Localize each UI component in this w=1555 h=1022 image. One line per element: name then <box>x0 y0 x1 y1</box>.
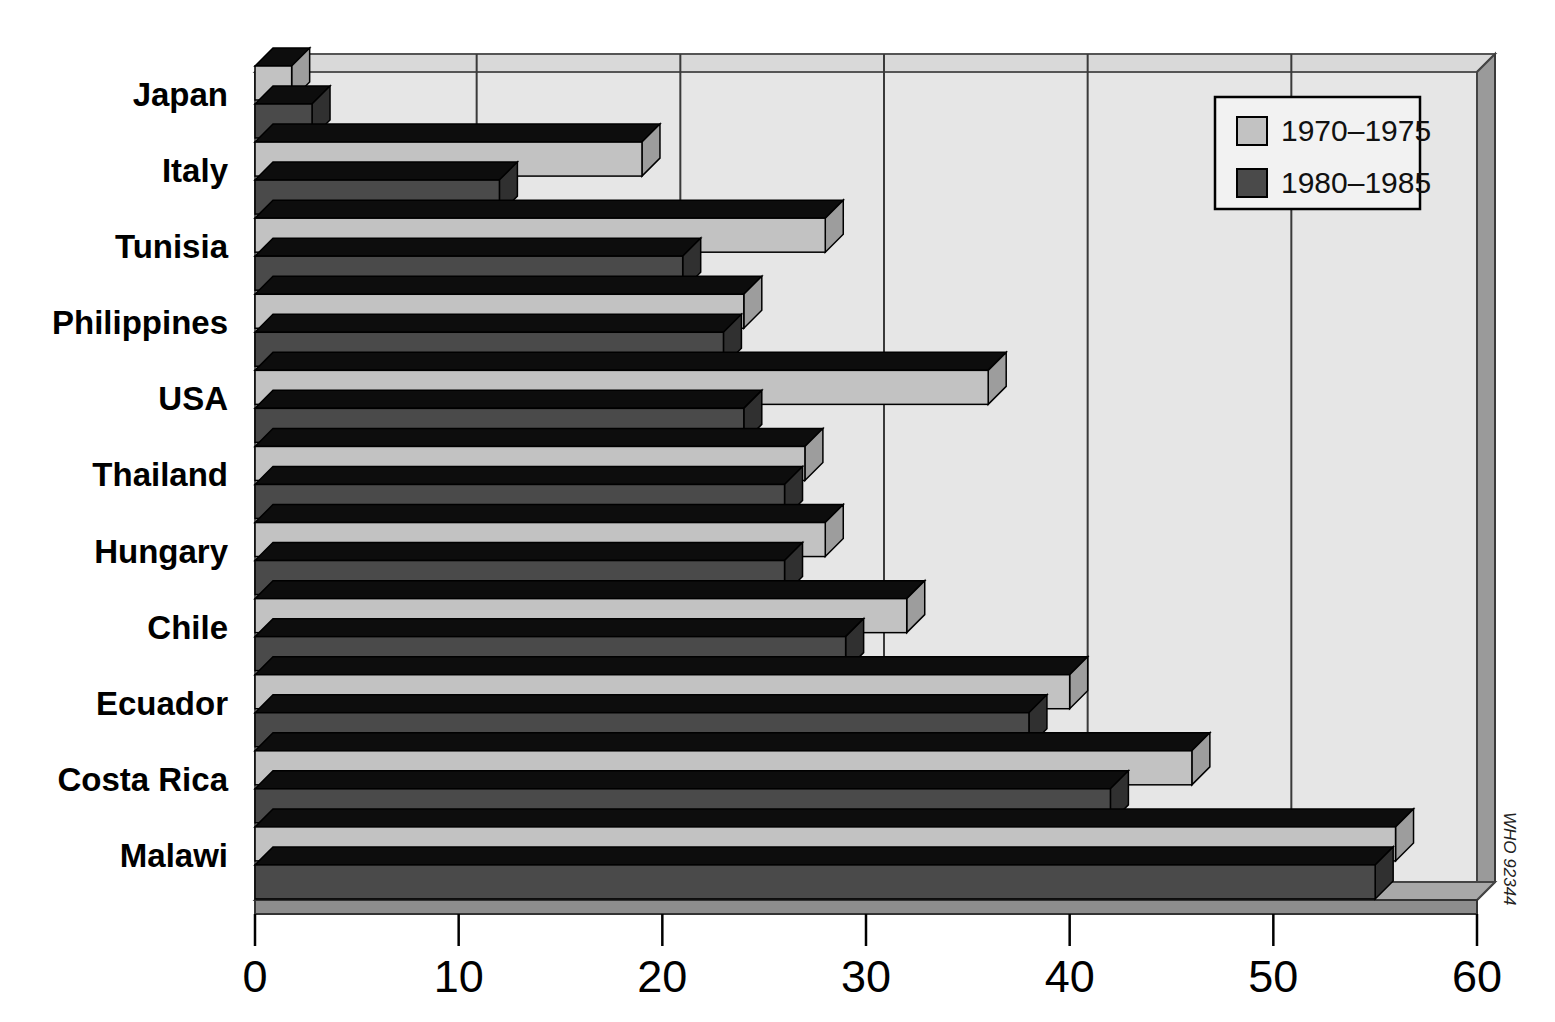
bar-top-face <box>255 619 864 637</box>
category-label: Hungary <box>94 533 229 570</box>
x-axis-tick-label: 30 <box>841 951 891 1002</box>
bar-front-face <box>255 865 1375 899</box>
legend-item <box>1237 117 1267 145</box>
bar-top-face <box>255 505 843 523</box>
category-label: Thailand <box>92 456 228 493</box>
bar-top-face <box>255 466 803 484</box>
bar-top-face <box>255 314 741 332</box>
bar-top-face <box>255 162 517 180</box>
bar-top-face <box>255 200 843 218</box>
category-label: Ecuador <box>96 685 228 722</box>
bar <box>255 847 1393 899</box>
credit-text: WHO 92344 <box>1500 812 1519 906</box>
legend-item <box>1237 169 1267 197</box>
category-label: Tunisia <box>115 228 229 265</box>
bar-top-face <box>255 276 762 294</box>
bar-top-face <box>255 428 823 446</box>
bar-top-face <box>255 390 762 408</box>
bar-top-face <box>255 771 1128 789</box>
x-axis <box>255 914 1477 946</box>
plot-right-wall <box>1477 54 1495 900</box>
bar-top-face <box>255 809 1414 827</box>
floor-front-face <box>255 900 1477 914</box>
category-label: Italy <box>162 152 229 189</box>
bar-top-face <box>255 695 1047 713</box>
category-label: Costa Rica <box>57 761 228 798</box>
bar-top-face <box>255 847 1393 865</box>
bar-chart: JapanItalyTunisiaPhilippinesUSAThailandH… <box>0 0 1555 1022</box>
category-label: Japan <box>133 76 228 113</box>
bar-top-face <box>255 657 1088 675</box>
category-label: Philippines <box>52 304 228 341</box>
bar-top-face <box>255 238 701 256</box>
bar-group-malawi <box>255 809 1414 899</box>
x-axis-tick-label: 60 <box>1452 951 1502 1002</box>
legend-label: 1970–1975 <box>1281 114 1431 147</box>
x-axis-tick-label: 20 <box>637 951 687 1002</box>
legend-swatch <box>1237 117 1267 145</box>
x-axis-tick-label: 50 <box>1248 951 1298 1002</box>
bar-top-face <box>255 124 660 142</box>
category-label: Malawi <box>120 837 228 874</box>
chart-canvas: JapanItalyTunisiaPhilippinesUSAThailandH… <box>0 0 1555 1022</box>
plot-top-edge <box>255 54 1495 72</box>
x-axis-tick-label: 40 <box>1045 951 1095 1002</box>
bar-top-face <box>255 543 803 561</box>
bar-top-face <box>255 733 1210 751</box>
category-label: USA <box>158 380 228 417</box>
legend-swatch <box>1237 169 1267 197</box>
top-edge-face <box>255 54 1495 72</box>
right-wall-face <box>1477 54 1495 900</box>
x-axis-tick-label: 0 <box>242 951 267 1002</box>
category-label: Chile <box>147 609 228 646</box>
x-axis-tick-label: 10 <box>434 951 484 1002</box>
bar-top-face <box>255 352 1006 370</box>
bar-top-face <box>255 581 925 599</box>
legend-label: 1980–1985 <box>1281 166 1431 199</box>
